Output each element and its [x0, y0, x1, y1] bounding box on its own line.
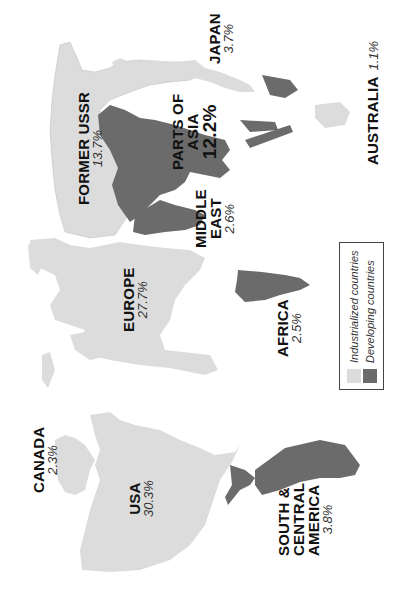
legend-label: Industrialized countries [348, 250, 360, 363]
label-parts-of-asia: PARTS OF ASIA 12.2% [170, 94, 219, 170]
label-former-ussr: FORMER USSR 13.7% [76, 92, 104, 205]
region-value: 12.2% [200, 94, 219, 170]
region-name-line: CENTRAL [291, 483, 306, 556]
region-name: CANADA [31, 427, 46, 493]
label-japan: JAPAN 3.7% [207, 13, 235, 64]
region-australia-shape [315, 102, 350, 128]
region-name-line: PARTS OF [170, 94, 185, 170]
region-value: 3.7% [222, 13, 235, 64]
region-value: 2.3% [46, 427, 59, 493]
region-value: 3.8% [321, 483, 334, 556]
region-value: 13.7% [91, 92, 104, 205]
region-iceland-shape [42, 352, 55, 388]
region-africa-shape [235, 270, 310, 302]
region-name: AUSTRALIA [365, 77, 380, 165]
label-middle-east: MIDDLE EAST 2.6% [193, 189, 236, 248]
label-canada: CANADA 2.3% [31, 427, 59, 493]
region-name-line: AMERICA [306, 483, 321, 556]
region-name: JAPAN [207, 13, 222, 64]
region-value: 2.6% [223, 189, 236, 248]
region-usa-shape [80, 412, 240, 572]
label-south-central-america: SOUTH & CENTRAL AMERICA 3.8% [276, 483, 334, 556]
region-name-line: SOUTH & [276, 483, 291, 556]
legend-swatch-industrialized [347, 369, 361, 383]
region-name: AFRICA [275, 299, 290, 357]
legend: Industrialized countries Developing coun… [339, 242, 384, 390]
region-canada-shape [55, 435, 95, 495]
region-name-line: ASIA [185, 94, 200, 170]
region-name-line: MIDDLE [193, 189, 208, 248]
region-name: USA [127, 480, 142, 517]
region-name-line: EAST [208, 189, 223, 248]
region-se-asia-islands-shape [262, 75, 298, 98]
region-se-asia-islands-shape-2 [240, 120, 278, 132]
region-value: 30.3% [142, 480, 155, 517]
legend-item-industrialized: Industrialized countries [346, 250, 362, 383]
region-value: 2.5% [290, 299, 303, 357]
region-central-america-shape [225, 465, 255, 505]
label-africa: AFRICA 2.5% [275, 299, 303, 357]
label-australia: AUSTRALIA 1.1% [365, 41, 380, 165]
region-value: 27.7% [136, 267, 149, 332]
region-value: 1.1% [367, 41, 380, 71]
label-usa: USA 30.3% [127, 480, 155, 517]
region-name: FORMER USSR [76, 92, 91, 205]
legend-item-developing: Developing countries [362, 260, 378, 383]
legend-label: Developing countries [364, 260, 376, 363]
region-name: EUROPE [121, 267, 136, 332]
label-europe: EUROPE 27.7% [121, 267, 149, 332]
cartogram-map [0, 0, 395, 590]
legend-swatch-developing [363, 369, 377, 383]
